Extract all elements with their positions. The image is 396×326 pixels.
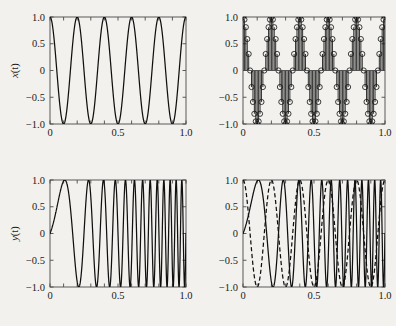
x-tick-label: 1.0 <box>378 127 391 138</box>
x-tick-label: 0.5 <box>307 127 320 138</box>
y-tick-label: 0 <box>233 65 238 76</box>
y-tick-label: −1.0 <box>219 282 238 293</box>
signal-curve <box>243 180 385 287</box>
y-tick-label: −1.0 <box>219 119 238 130</box>
y-tick-label: 0.5 <box>32 201 45 212</box>
y-tick-label: 0.5 <box>225 38 238 49</box>
y-tick-label: −0.5 <box>26 92 45 103</box>
x-tick-label: 1.0 <box>179 290 192 301</box>
y-tick-label: 1.0 <box>32 175 45 186</box>
x-tick-label: 0 <box>47 290 52 301</box>
plot-canvas-top-left: 00.51.01.00.50−0.5−1.0x(t) <box>0 0 198 163</box>
plot-panel-bottom-left: 00.51.01.00.50−0.5−1.0y(t) <box>0 163 198 326</box>
y-axis-label: y(t) <box>9 226 21 242</box>
x-tick-label: 0.5 <box>307 290 320 301</box>
x-tick-label: 0.5 <box>111 290 124 301</box>
x-tick-label: 0 <box>240 290 245 301</box>
x-tick-label: 1.0 <box>378 290 391 301</box>
y-tick-label: 1.0 <box>32 12 45 23</box>
signal-plot-figure: 00.51.01.00.50−0.5−1.0x(t) 00.51.01.00.5… <box>0 0 396 326</box>
signal-curve <box>50 17 186 124</box>
y-tick-label: 0.5 <box>225 201 238 212</box>
plot-panel-bottom-right: 00.51.01.00.50−0.5−1.0 <box>198 163 396 326</box>
y-tick-label: 0 <box>40 65 45 76</box>
plot-panel-top-left: 00.51.01.00.50−0.5−1.0x(t) <box>0 0 198 163</box>
y-tick-label: −0.5 <box>219 255 238 266</box>
x-tick-label: 0 <box>47 127 52 138</box>
y-tick-label: 0.5 <box>32 38 45 49</box>
y-tick-label: 1.0 <box>225 12 238 23</box>
x-tick-label: 1.0 <box>179 127 192 138</box>
x-tick-label: 0.5 <box>111 127 124 138</box>
y-tick-label: 0 <box>40 228 45 239</box>
y-axis-label: x(t) <box>9 63 21 79</box>
x-tick-label: 0 <box>240 127 245 138</box>
signal-curve <box>50 180 186 287</box>
y-tick-label: −1.0 <box>26 119 45 130</box>
y-tick-label: −0.5 <box>26 255 45 266</box>
plot-canvas-bottom-left: 00.51.01.00.50−0.5−1.0y(t) <box>0 163 198 326</box>
plot-canvas-top-right: 00.51.01.00.50−0.5−1.0 <box>198 0 396 163</box>
y-tick-label: 1.0 <box>225 175 238 186</box>
y-tick-label: 0 <box>233 228 238 239</box>
y-tick-label: −0.5 <box>219 92 238 103</box>
plot-canvas-bottom-right: 00.51.01.00.50−0.5−1.0 <box>198 163 396 326</box>
y-tick-label: −1.0 <box>26 282 45 293</box>
plot-panel-top-right: 00.51.01.00.50−0.5−1.0 <box>198 0 396 163</box>
